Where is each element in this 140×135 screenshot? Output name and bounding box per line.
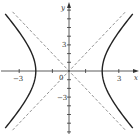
x-axis-label: x — [134, 74, 138, 82]
y-tick-label-neg3: −3 — [57, 94, 67, 102]
hyperbola-plot: x y 0 −3 3 3 −3 — [0, 0, 140, 135]
x-tick-label-neg3: −3 — [13, 75, 23, 83]
x-tick-label-3: 3 — [117, 75, 121, 83]
origin-label: 0 — [59, 74, 63, 82]
x-axis-arrow-icon — [133, 69, 139, 73]
y-axis-label: y — [60, 4, 66, 12]
y-axis-arrow-icon — [67, 2, 71, 8]
y-tick-label-3: 3 — [62, 41, 66, 49]
